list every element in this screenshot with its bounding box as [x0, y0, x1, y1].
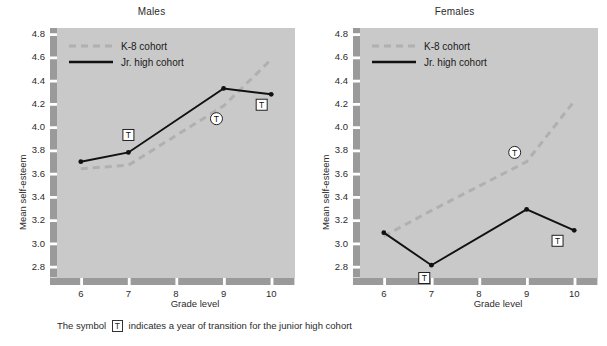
data-point-marker [78, 159, 83, 164]
y-axis-band-segment [50, 129, 57, 149]
x-axis-label-males: Grade level [145, 298, 245, 309]
svg-text:T: T [126, 130, 131, 140]
axis-corner-block [50, 278, 57, 285]
y-tick-label: 3.4 [335, 191, 348, 202]
figure-caption: The symbol T indicates a year of transit… [57, 320, 352, 332]
y-tick-label: 3.6 [335, 168, 348, 179]
legend-label-2: Jr. high cohort [424, 57, 487, 68]
chart-panel-females: Females 2.83.03.23.43.63.84.04.24.44.64.… [303, 0, 606, 310]
y-tick-label: 3.0 [32, 238, 45, 249]
y-tick-label: 4.4 [32, 75, 45, 86]
legend-label-1: K-8 cohort [424, 41, 470, 52]
y-axis-band-segment [353, 59, 360, 79]
y-axis-band-segment [353, 176, 360, 196]
x-tick-label: 6 [78, 288, 83, 299]
x-tick-label: 7 [429, 288, 434, 299]
data-point-marker [572, 228, 577, 233]
svg-text:T: T [422, 273, 427, 283]
y-tick-label: 3.4 [32, 191, 45, 202]
x-tick-label: 6 [381, 288, 386, 299]
y-tick-label: 4.2 [32, 98, 45, 109]
y-axis-label-females: Mean self-esteem [320, 154, 331, 230]
x-axis-label-females: Grade level [448, 298, 548, 309]
plot-svg-females: 2.83.03.23.43.63.84.04.24.44.64.8678910T… [303, 0, 606, 310]
caption-text-after: indicates a year of transition for the j… [129, 320, 352, 331]
data-point-marker [429, 263, 434, 268]
y-axis-band-segment [50, 245, 57, 265]
y-axis-band-segment [353, 106, 360, 126]
y-tick-label: 4.6 [335, 51, 348, 62]
x-axis-band-segment [576, 278, 597, 285]
y-tick-label: 4.8 [32, 28, 45, 39]
svg-text:T: T [259, 100, 264, 110]
y-axis-band-segment [50, 28, 57, 33]
plot-svg-males: 2.83.03.23.43.63.84.04.24.44.64.8678910T… [0, 0, 303, 310]
y-axis-band-segment [50, 83, 57, 103]
chart-panel-males: Males Mean self-esteem 2.83.03.23.43.63.… [0, 0, 303, 310]
transition-marker-square: T [552, 235, 563, 246]
axis-corner-block [353, 278, 360, 285]
x-tick-label: 10 [266, 288, 277, 299]
y-axis-band-segment [50, 269, 57, 278]
y-tick-label: 3.8 [335, 144, 348, 155]
transition-symbol-legend: T [112, 320, 123, 332]
y-axis-band-segment [353, 245, 360, 265]
y-tick-label: 3.2 [32, 214, 45, 225]
y-axis-band-segment [353, 28, 360, 33]
data-point-marker [126, 150, 131, 155]
data-point-marker [524, 207, 529, 212]
x-axis-band-segment [481, 278, 526, 285]
x-axis-band-segment [434, 278, 479, 285]
y-axis-band-segment [50, 59, 57, 79]
y-axis-band-segment [353, 152, 360, 172]
y-tick-label: 4.0 [335, 121, 348, 132]
y-axis-band-segment [353, 269, 360, 278]
y-axis-band-segment [353, 199, 360, 219]
y-axis-band-segment [353, 36, 360, 56]
y-axis-band-segment [50, 176, 57, 196]
data-point-marker [269, 92, 274, 97]
x-axis-band-segment [83, 278, 128, 285]
y-tick-label: 3.8 [32, 144, 45, 155]
x-axis-band-segment [226, 278, 271, 285]
x-axis-band-segment [178, 278, 223, 285]
x-axis-band-segment [131, 278, 176, 285]
y-axis-band-segment [50, 222, 57, 242]
y-tick-label: 4.6 [32, 51, 45, 62]
legend-label-1: K-8 cohort [121, 41, 167, 52]
svg-text:T: T [512, 148, 517, 158]
y-axis-band-segment [50, 36, 57, 56]
x-axis-band-segment [273, 278, 294, 285]
caption-text-before: The symbol [57, 320, 106, 331]
transition-marker-circle: T [210, 113, 222, 125]
y-tick-label: 2.8 [32, 261, 45, 272]
y-tick-label: 3.6 [32, 168, 45, 179]
y-axis-band-segment [50, 106, 57, 126]
y-tick-label: 4.0 [32, 121, 45, 132]
y-tick-label: 4.8 [335, 28, 348, 39]
y-axis-band-segment [50, 152, 57, 172]
y-tick-label: 4.2 [335, 98, 348, 109]
y-tick-label: 2.8 [335, 261, 348, 272]
y-tick-label: 4.4 [335, 75, 348, 86]
x-tick-label: 10 [569, 288, 580, 299]
y-axis-band-segment [353, 129, 360, 149]
x-axis-band-segment [360, 278, 383, 285]
transition-marker-square: T [256, 99, 267, 110]
svg-text:T: T [555, 236, 560, 246]
transition-marker-square: T [123, 129, 134, 140]
x-axis-band-segment [57, 278, 80, 285]
data-point-marker [381, 230, 386, 235]
x-tick-label: 7 [126, 288, 131, 299]
data-point-marker [221, 86, 226, 91]
figure-container: Males Mean self-esteem 2.83.03.23.43.63.… [0, 0, 607, 346]
svg-text:T: T [214, 114, 219, 124]
y-axis-band-segment [353, 222, 360, 242]
y-tick-label: 3.0 [335, 238, 348, 249]
y-tick-label: 3.2 [335, 214, 348, 225]
y-axis-band-segment [50, 199, 57, 219]
x-axis-band-segment [529, 278, 574, 285]
legend-label-2: Jr. high cohort [121, 57, 184, 68]
transition-marker-circle: T [509, 146, 521, 158]
y-axis-band-segment [353, 83, 360, 103]
